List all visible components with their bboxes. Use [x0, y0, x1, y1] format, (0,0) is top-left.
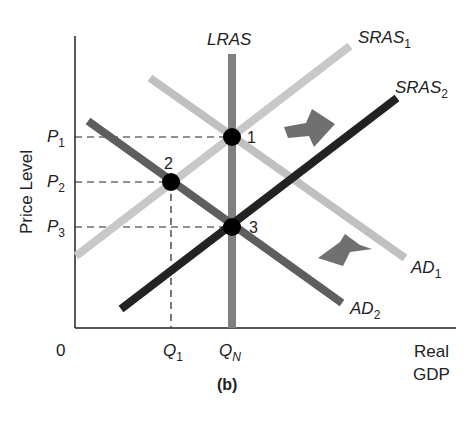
p3-label: P3: [47, 217, 65, 240]
x-axis-label-line2: GDP: [413, 365, 450, 384]
p2-label: P2: [47, 172, 65, 195]
sras-shift-arrow-icon: [284, 109, 335, 147]
point-2-label: 2: [164, 155, 173, 172]
q1-label: Q1: [163, 341, 183, 364]
sras1-curve: [76, 46, 350, 256]
sras2-curve: [121, 98, 397, 309]
point-3-label: 3: [249, 219, 258, 236]
sras2-label: SRAS2: [395, 78, 448, 101]
equilibrium-point-1: [223, 128, 241, 146]
qn-label: QN: [219, 341, 241, 364]
ad2-label: AD2: [349, 299, 381, 322]
p1-label: P1: [47, 127, 65, 150]
origin-label: 0: [56, 341, 65, 360]
point-1-label: 1: [247, 129, 256, 146]
as-ad-diagram: LRAS SRAS1 SRAS2 AD1 AD2 1 2 3 P1 P2 P3 …: [0, 0, 471, 421]
y-axis-label: Price Level: [17, 150, 36, 234]
ad-shift-arrow-icon: [318, 234, 372, 266]
sras1-label: SRAS1: [358, 28, 411, 51]
lras-label: LRAS: [207, 30, 252, 49]
equilibrium-point-3: [223, 218, 241, 236]
ad1-label: AD1: [410, 258, 442, 281]
panel-label: (b): [217, 376, 237, 393]
x-axis-label-line1: Real: [414, 342, 449, 361]
equilibrium-point-2: [162, 173, 180, 191]
